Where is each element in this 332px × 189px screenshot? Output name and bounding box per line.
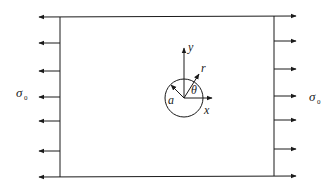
angle-label: θ xyxy=(191,83,197,97)
plate xyxy=(60,16,274,177)
plate-bottom-edge xyxy=(39,176,296,177)
stress-subscript-right: 0 xyxy=(317,98,321,106)
left-traction-arrows xyxy=(39,43,60,151)
plate-with-hole-diagram: y x r θ a σ 0 σ 0 xyxy=(0,0,332,189)
stress-symbol-left: σ xyxy=(16,85,23,100)
x-axis-label: x xyxy=(203,103,210,117)
stress-subscript-left: 0 xyxy=(24,94,28,102)
stress-label-left: σ 0 xyxy=(16,85,28,102)
radius-label: a xyxy=(168,93,174,107)
stress-symbol-right: σ xyxy=(309,89,316,104)
y-axis-label: y xyxy=(187,40,194,54)
stress-label-right: σ 0 xyxy=(309,89,321,106)
plate-top-edge xyxy=(39,16,296,17)
radial-label: r xyxy=(201,61,206,75)
right-traction-arrows xyxy=(274,41,296,149)
